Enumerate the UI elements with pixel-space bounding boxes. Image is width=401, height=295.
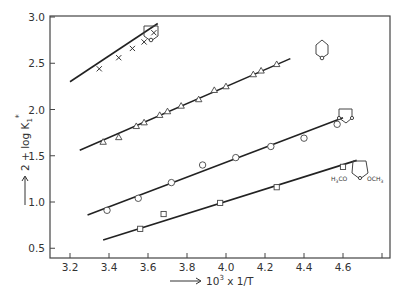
y-title-sub: 1 <box>26 118 34 122</box>
square-marker-icon <box>218 200 223 205</box>
circle-marker-icon <box>301 135 307 141</box>
x-title-base: 10 <box>206 275 219 287</box>
fit-line <box>70 23 158 81</box>
y-tick-label: 2.0 <box>28 104 45 116</box>
plot-frame <box>50 16 390 258</box>
methoxy-left-tail: CO <box>338 175 347 182</box>
circle-marker-icon <box>233 154 239 160</box>
svg-text:H3CO: H3CO <box>331 175 348 184</box>
triangle-marker-icon <box>211 87 217 93</box>
x-marker-icon <box>151 30 156 35</box>
x-marker-icon <box>116 55 121 60</box>
y-title-sup: * <box>15 114 24 118</box>
x-axis-title: 103 x 1/T <box>170 274 254 287</box>
x-marker-icon <box>97 66 102 71</box>
circle-marker-icon <box>334 121 340 127</box>
y-title-main: 2 + log K <box>19 122 31 171</box>
square-marker-icon <box>340 164 345 169</box>
square-marker-icon <box>161 211 166 216</box>
x-marker-icon <box>130 46 135 51</box>
series-tetrahydropyran <box>80 59 291 151</box>
methoxy-right: OCH <box>367 175 380 182</box>
circle-marker-icon <box>135 195 141 201</box>
svg-text:2 + log K1*: 2 + log K1* <box>15 114 34 171</box>
arrhenius-chart: 3.23.43.63.84.04.24.44.6 0.51.01.52.02.5… <box>0 0 401 295</box>
fit-line <box>88 118 343 215</box>
y-tick-label: 2.5 <box>28 57 45 69</box>
x-tick-label: 3.6 <box>140 261 157 273</box>
circle-marker-icon <box>199 162 205 168</box>
circle-marker-icon <box>104 207 110 213</box>
x-tick-label: 3.4 <box>101 261 118 273</box>
structure-thp-icon <box>316 40 328 60</box>
y-axis-ticks: 0.51.01.52.02.53.0 <box>28 11 55 254</box>
y-tick-label: 3.0 <box>28 11 45 23</box>
x-tick-label: 4.6 <box>335 261 352 273</box>
series-layer <box>70 23 357 239</box>
square-marker-icon <box>138 226 143 231</box>
structure-dimethoxy-thf-icon: H3CO OCH3 <box>331 161 383 184</box>
x-tick-label: 4.4 <box>296 261 313 273</box>
x-tick-label: 3.2 <box>62 261 79 273</box>
circle-marker-icon <box>268 143 274 149</box>
svg-text:103 x 1/T: 103 x 1/T <box>206 274 254 287</box>
structure-dioxolane-icon <box>337 109 353 123</box>
series-tetrahydrofuran <box>70 23 158 81</box>
square-marker-icon <box>274 185 279 190</box>
y-tick-label: 1.0 <box>28 196 45 208</box>
x-axis-ticks: 3.23.43.63.84.04.24.44.6 <box>62 253 382 273</box>
circle-marker-icon <box>168 179 174 185</box>
series-1,3-dioxolane <box>88 118 343 215</box>
x-title-rest: x 1/T <box>224 275 254 287</box>
x-tick-label: 3.8 <box>179 261 196 273</box>
x-tick-label: 4.2 <box>257 261 274 273</box>
svg-text:OCH3: OCH3 <box>367 175 383 184</box>
methoxy-right-sub: 3 <box>380 179 383 184</box>
x-marker-icon <box>142 39 147 44</box>
y-tick-label: 0.5 <box>28 242 45 254</box>
x-tick-label: 4.0 <box>218 261 235 273</box>
